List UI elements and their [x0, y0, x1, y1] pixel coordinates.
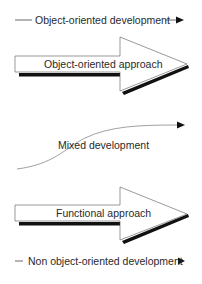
upper-arrow-label: Object-oriented approach [44, 58, 163, 70]
top-flow-label: Object-oriented development [35, 14, 170, 26]
bottom-flow-label: Non object-oriented development [28, 255, 183, 267]
mixed-flow-label: Mixed development [58, 139, 149, 151]
lower-arrow-label: Functional approach [56, 207, 151, 219]
arrow-right-icon [177, 122, 185, 129]
arrow-right-icon [176, 17, 184, 24]
